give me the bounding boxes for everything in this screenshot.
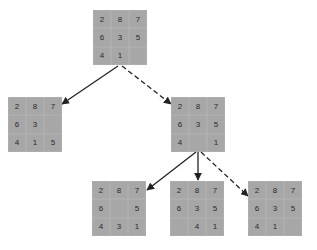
tile: 2 xyxy=(170,181,188,199)
tile: 6 xyxy=(93,28,111,46)
puzzle-board-left: 28763415 xyxy=(8,97,62,152)
tile: 3 xyxy=(111,28,129,46)
tile: 2 xyxy=(8,97,26,115)
tile: 1 xyxy=(26,134,44,152)
tile: 4 xyxy=(188,218,206,236)
tile: 4 xyxy=(248,218,266,236)
tile: 8 xyxy=(266,181,284,199)
blank-tile xyxy=(189,134,207,152)
tile: 1 xyxy=(206,218,224,236)
tile: 4 xyxy=(8,134,26,152)
tile: 7 xyxy=(44,97,62,115)
tile: 1 xyxy=(128,218,146,236)
blank-tile xyxy=(170,218,188,236)
tile: 5 xyxy=(206,199,224,217)
tile: 5 xyxy=(44,134,62,152)
tile: 6 xyxy=(170,199,188,217)
tile: 1 xyxy=(266,218,284,236)
puzzle-board-bottom-middle: 28763541 xyxy=(170,181,224,236)
arrow-root-to-left xyxy=(62,66,118,104)
puzzle-board-root: 28763541 xyxy=(93,10,147,65)
tile: 2 xyxy=(171,97,189,115)
tile: 5 xyxy=(129,28,147,46)
tile: 8 xyxy=(110,181,128,199)
tile: 7 xyxy=(128,181,146,199)
tile: 3 xyxy=(189,115,207,133)
tile: 6 xyxy=(171,115,189,133)
tile: 8 xyxy=(111,10,129,28)
tile: 3 xyxy=(188,199,206,217)
tile: 1 xyxy=(111,47,129,65)
puzzle-board-bottom-left: 28765431 xyxy=(92,181,146,236)
puzzle-board-bottom-right: 28763541 xyxy=(248,181,302,236)
tile: 5 xyxy=(284,199,302,217)
tile: 8 xyxy=(26,97,44,115)
tile: 3 xyxy=(110,218,128,236)
tile: 2 xyxy=(248,181,266,199)
tile: 6 xyxy=(8,115,26,133)
puzzle-board-right: 28763541 xyxy=(171,97,225,152)
tile: 5 xyxy=(128,199,146,217)
tile: 4 xyxy=(171,134,189,152)
tile: 3 xyxy=(26,115,44,133)
tile: 8 xyxy=(189,97,207,115)
tile: 6 xyxy=(92,199,110,217)
arrow-root-to-right xyxy=(122,66,171,104)
tile: 5 xyxy=(207,115,225,133)
blank-tile xyxy=(110,199,128,217)
tile: 2 xyxy=(92,181,110,199)
tile: 8 xyxy=(188,181,206,199)
tile: 2 xyxy=(93,10,111,28)
blank-tile xyxy=(284,218,302,236)
tile: 1 xyxy=(207,134,225,152)
blank-tile xyxy=(129,47,147,65)
tile: 7 xyxy=(206,181,224,199)
tile: 7 xyxy=(207,97,225,115)
tile: 4 xyxy=(92,218,110,236)
tile: 7 xyxy=(129,10,147,28)
blank-tile xyxy=(44,115,62,133)
tile: 4 xyxy=(93,47,111,65)
tile: 7 xyxy=(284,181,302,199)
tile: 3 xyxy=(266,199,284,217)
tile: 6 xyxy=(248,199,266,217)
